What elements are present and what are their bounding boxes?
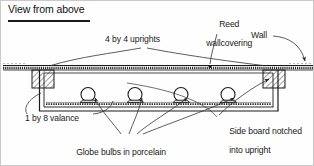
label-4by4-uprights: 4 by 4 uprights	[105, 35, 160, 45]
label-side-board: Side board notched into upright	[220, 117, 302, 165]
label-reed-line1: Reed	[219, 19, 239, 29]
bulb-group-3	[173, 88, 190, 103]
leader-wall	[273, 36, 305, 61]
figure-canvas: View from above	[0, 0, 314, 166]
label-sideboard-line1: Side board notched	[229, 126, 302, 136]
label-globe-bulbs: Globe bulbs in porcelain lampholders	[67, 138, 166, 166]
label-reed-line2: wallcovering	[206, 38, 252, 48]
label-globe-line1: Globe bulbs in porcelain	[76, 147, 166, 157]
leader-reed-dot	[209, 65, 212, 68]
bulb-group-1	[80, 88, 97, 103]
label-1by8-valance: 1 by 8 valance	[25, 114, 79, 124]
label-wall: Wall	[251, 31, 267, 41]
label-sideboard-line2: into upright	[229, 145, 270, 155]
valance-box	[39, 70, 279, 111]
label-reed-wallcovering: Reed wallcovering	[197, 10, 252, 58]
leader-valance-left	[26, 93, 41, 114]
wall-assembly	[3, 64, 313, 71]
leader-uprights-left	[51, 48, 141, 66]
